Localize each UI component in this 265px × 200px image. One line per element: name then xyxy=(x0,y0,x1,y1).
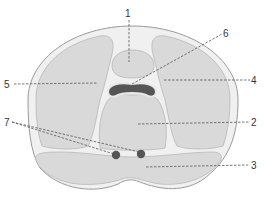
muscle-top xyxy=(112,50,154,78)
cross-section-diagram: 1 2 3 4 5 6 7 xyxy=(0,0,265,200)
label-1: 1 xyxy=(125,8,131,19)
label-4: 4 xyxy=(251,75,257,86)
label-2: 2 xyxy=(251,117,257,128)
label-7: 7 xyxy=(4,117,10,128)
label-6: 6 xyxy=(223,28,229,39)
muscle-center xyxy=(99,94,166,150)
vessel-left xyxy=(112,151,120,159)
label-3: 3 xyxy=(251,160,257,171)
label-5: 5 xyxy=(4,79,10,90)
vessel-right xyxy=(137,150,145,158)
